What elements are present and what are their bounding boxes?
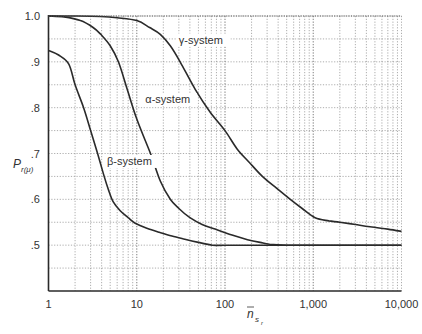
y-tick-label: .8	[31, 102, 40, 114]
curve-label: β-system	[107, 155, 152, 167]
x-tick-label: 100	[216, 298, 234, 310]
y-tick-label: .5	[31, 239, 40, 251]
x-tick-label: 10,000	[385, 298, 419, 310]
y-axis-label-subscript: r(μ)	[21, 165, 34, 174]
y-tick-label: .7	[31, 148, 40, 160]
x-tick-label: 10	[131, 298, 143, 310]
x-axis-label: n	[247, 307, 254, 321]
chart: 1101001,00010,0001.0.9.8.7.6.5 β-systemα…	[0, 0, 422, 334]
x-axis-label-subscript: s	[255, 315, 259, 324]
x-tick-label: 1,000	[299, 298, 327, 310]
y-tick-label: .6	[31, 193, 40, 205]
grid	[49, 16, 402, 291]
tick-labels: 1101001,00010,0001.0.9.8.7.6.5	[25, 10, 419, 310]
y-tick-label: 1.0	[25, 10, 40, 22]
y-axis-label: P	[13, 157, 21, 171]
curve-label: γ-system	[179, 34, 223, 46]
x-axis-label-subsubscript: r	[261, 320, 264, 326]
y-tick-label: .9	[31, 56, 40, 68]
curve-label: α-system	[145, 93, 190, 105]
x-tick-label: 1	[45, 298, 51, 310]
